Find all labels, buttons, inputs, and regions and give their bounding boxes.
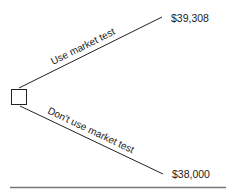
branch-label-dont-use-market-test: Don't use market test bbox=[46, 105, 136, 155]
branch-line-use-market-test bbox=[19, 17, 162, 88]
decision-tree-diagram: Use market test $39,308 Don't use market… bbox=[0, 0, 226, 194]
payoff-use-market-test: $39,308 bbox=[171, 12, 209, 24]
payoff-dont-use-market-test: $38,000 bbox=[172, 168, 210, 180]
branch-label-use-market-test: Use market test bbox=[49, 26, 117, 67]
decision-node bbox=[12, 90, 27, 105]
branch-line-dont-use-market-test bbox=[20, 106, 163, 174]
